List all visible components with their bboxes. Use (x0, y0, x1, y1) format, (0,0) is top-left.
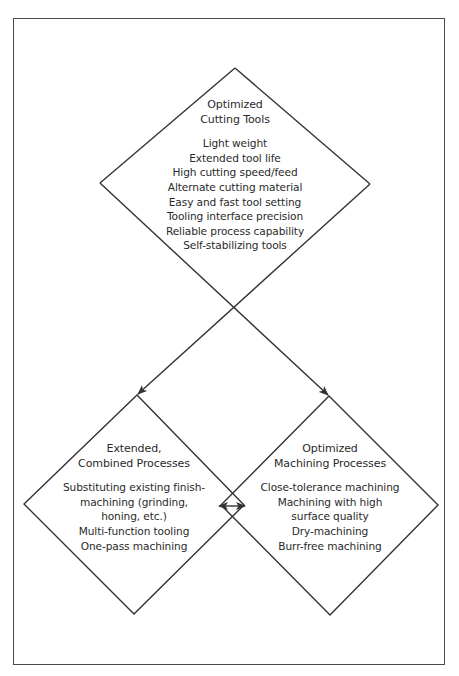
node-title: Optimized Cutting Tools (135, 98, 335, 127)
list-item: Dry-machining (250, 524, 410, 539)
node-title: Optimized Machining Processes (250, 442, 410, 471)
list-item: surface quality (250, 509, 410, 524)
list-item: High cutting speed/feed (135, 165, 335, 180)
node-title: Extended, Combined Processes (54, 442, 214, 471)
list-item: Light weight (135, 136, 335, 151)
list-item: honing, etc.) (54, 509, 214, 524)
list-item: Reliable process capability (135, 224, 335, 239)
list-item: Substituting existing finish- (54, 480, 214, 495)
list-item: One-pass machining (54, 539, 214, 554)
list-item: Machining with high (250, 495, 410, 510)
node-items: Substituting existing finish- machining … (54, 480, 214, 553)
list-item: Extended tool life (135, 151, 335, 166)
list-item: machining (grinding, (54, 495, 214, 510)
list-item: Self-stabilizing tools (135, 238, 335, 253)
node-optimized-cutting-tools: Optimized Cutting Tools Light weight Ext… (135, 98, 335, 253)
list-item: Close-tolerance machining (250, 480, 410, 495)
list-item: Multi-function tooling (54, 524, 214, 539)
node-optimized-machining-processes: Optimized Machining Processes Close-tole… (250, 442, 410, 553)
list-item: Easy and fast tool setting (135, 195, 335, 210)
node-items: Light weight Extended tool life High cut… (135, 136, 335, 253)
node-items: Close-tolerance machining Machining with… (250, 480, 410, 553)
list-item: Alternate cutting material (135, 180, 335, 195)
list-item: Burr-free machining (250, 539, 410, 554)
node-extended-combined-processes: Extended, Combined Processes Substitutin… (54, 442, 214, 553)
list-item: Tooling interface precision (135, 209, 335, 224)
